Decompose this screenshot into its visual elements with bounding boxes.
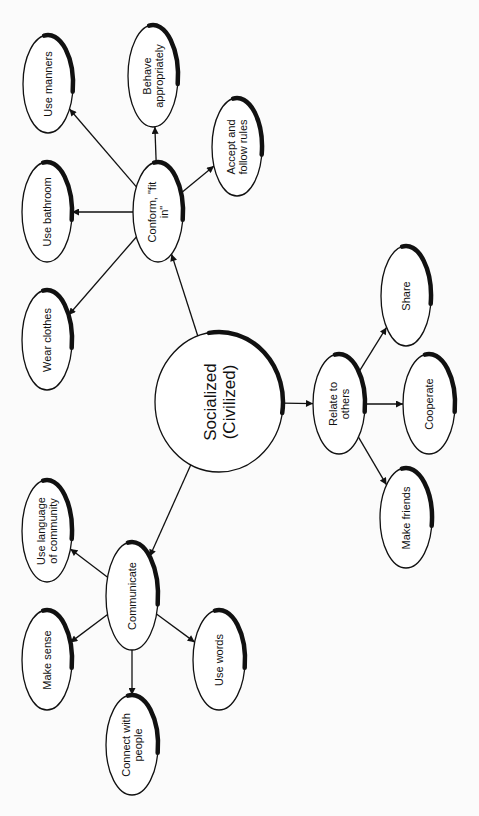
label-line: Connect with — [120, 713, 132, 777]
node-conform: Conform, "fitin" — [133, 162, 183, 262]
node-label: Wear clothes — [41, 308, 53, 372]
label-line: follow rules — [237, 119, 249, 175]
node-label: Make friends — [400, 486, 412, 549]
label-line: Socialized — [201, 363, 220, 441]
label-line: of community — [47, 498, 59, 564]
node-communicate: Communicate — [106, 542, 158, 650]
node-use-words: Use words — [193, 610, 245, 710]
label-line: Behave — [141, 57, 153, 94]
edge-relate-to-share — [359, 327, 387, 372]
label-line: appropriately — [153, 44, 165, 108]
node-relate: Relate toothers — [313, 354, 365, 454]
node-label: Make sense — [41, 630, 53, 689]
node-label: Communicate — [126, 562, 138, 630]
node-socialized: Socialized(Civilized) — [155, 332, 283, 472]
label-line: Use language — [35, 497, 47, 565]
edge-communicate-to-make-sense — [70, 614, 107, 642]
label-line: people — [132, 728, 144, 761]
edge-conform-to-wear-clothes — [69, 237, 137, 315]
label-line: Make friends — [400, 486, 412, 549]
label-line: Conform, "fit — [146, 182, 158, 243]
edge-socialized-to-conform — [172, 254, 198, 336]
edge-socialized-to-relate — [283, 403, 313, 404]
edge-conform-to-accept-rules — [181, 166, 214, 193]
node-make-sense: Make sense — [22, 610, 72, 710]
label-line: Communicate — [126, 562, 138, 630]
label-line: Wear clothes — [41, 308, 53, 372]
node-cooperate: Cooperate — [403, 354, 455, 454]
node-use-language: Use languageof community — [22, 480, 72, 582]
edge-relate-to-make-friends — [358, 437, 386, 485]
node-connect: Connect withpeople — [106, 695, 158, 795]
edge-conform-to-behave — [155, 127, 156, 162]
edge-communicate-to-use-words — [157, 614, 195, 642]
label-line: Use bathroom — [41, 177, 53, 246]
node-label: Share — [400, 281, 412, 310]
node-label: Accept andfollow rules — [225, 119, 250, 175]
center-label: Socialized(Civilized) — [201, 363, 239, 441]
node-behave: Behaveappropriately — [128, 25, 178, 127]
node-label: Use bathroom — [41, 177, 53, 246]
label-line: Relate to — [327, 382, 339, 426]
label-line: Use words — [213, 634, 225, 686]
node-accept-rules: Accept andfollow rules — [212, 98, 262, 196]
node-label: Cooperate — [423, 378, 435, 429]
label-line: Share — [400, 281, 412, 310]
node-label: Use words — [213, 634, 225, 686]
edge-conform-to-use-manners — [69, 109, 136, 187]
label-line: Accept and — [225, 119, 237, 174]
node-use-bathroom: Use bathroom — [22, 162, 72, 262]
concept-map-diagram: Socialized(Civilized)Conform, "fitin"Use… — [0, 0, 479, 816]
label-line: (Civilized) — [220, 365, 239, 440]
node-wear-clothes: Wear clothes — [22, 290, 72, 390]
label-line: in" — [158, 206, 170, 219]
node-label: Use languageof community — [35, 497, 60, 565]
edge-socialized-to-communicate — [150, 465, 191, 557]
edge-communicate-to-use-language — [70, 549, 107, 577]
nodes-layer: Socialized(Civilized)Conform, "fitin"Use… — [22, 25, 455, 795]
label-line: Cooperate — [423, 378, 435, 429]
label-line: Make sense — [41, 630, 53, 689]
label-line: others — [339, 388, 351, 419]
node-label: Use manners — [42, 51, 54, 117]
node-use-manners: Use manners — [23, 35, 73, 133]
node-make-friends: Make friends — [380, 468, 432, 568]
node-share: Share — [381, 246, 431, 346]
label-line: Use manners — [42, 51, 54, 117]
